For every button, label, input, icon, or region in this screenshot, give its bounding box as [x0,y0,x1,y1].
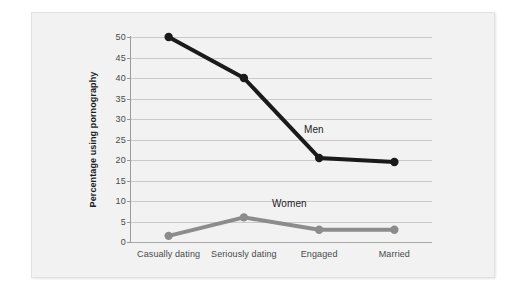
gridline-5 [131,222,432,223]
y-tick-label-0: 0 [121,237,126,247]
series-label-men: Men [304,124,324,135]
y-tick-label-10: 10 [116,196,126,206]
gridline-45 [131,58,432,59]
y-tick-label-40: 40 [116,73,126,83]
x-tick-label-engaged: Engaged [301,249,338,259]
y-axis-title: Percentage using pornography [88,37,102,242]
y-tick-label-30: 30 [116,114,126,124]
y-tick-label-15: 15 [116,176,126,186]
y-tick-label-20: 20 [116,155,126,165]
y-tick-label-5: 5 [121,217,126,227]
gridline-35 [131,99,432,100]
gridline-15 [131,181,432,182]
x-tick-label-casually-dating: Casually dating [137,249,200,259]
gridline-50 [131,37,432,38]
gridline-40 [131,78,432,79]
gridline-30 [131,119,432,120]
y-tick-label-35: 35 [116,94,126,104]
chart-figure: 05101520253035404550 Percentage using po… [0,0,527,294]
gridline-0 [131,242,432,243]
series-label-women: Women [272,198,307,209]
y-axis-line [130,36,131,243]
y-axis-tick-labels: 05101520253035404550 [108,37,126,242]
x-tick-label-seriously-dating: Seriously dating [211,249,277,259]
x-tick-label-married: Married [379,249,410,259]
y-tick-label-25: 25 [116,135,126,145]
plot-area [131,37,432,242]
gridline-20 [131,160,432,161]
y-axis-title-container: Percentage using pornography [96,0,110,294]
gridline-25 [131,140,432,141]
y-tick-label-50: 50 [116,32,126,42]
y-tick-label-45: 45 [116,53,126,63]
